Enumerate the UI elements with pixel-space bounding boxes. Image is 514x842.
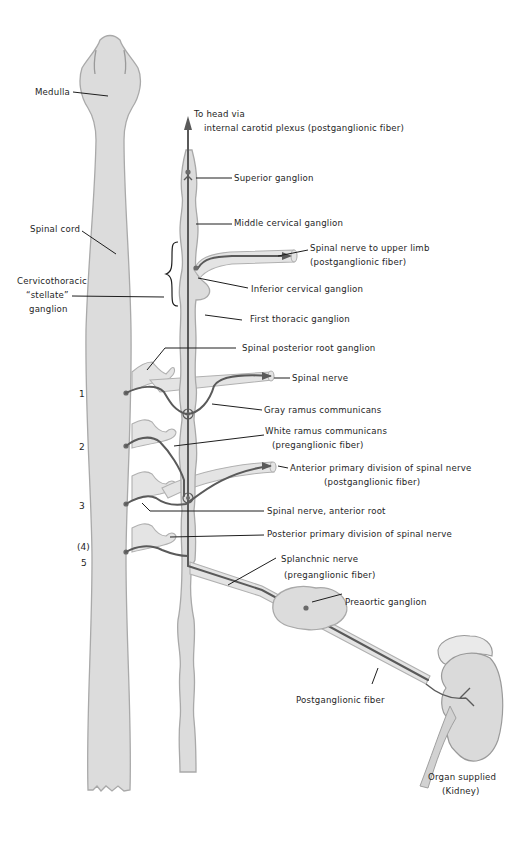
- label-to-head-line2: internal carotid plexus (postganglionic …: [204, 123, 404, 133]
- segment-number-3: 3: [79, 501, 85, 511]
- label-splanchnic-line1: Splanchnic nerve: [281, 554, 358, 564]
- label-preaortic-ganglion: Preaortic ganglion: [345, 597, 427, 607]
- label-medulla: Medulla: [35, 87, 70, 97]
- label-splanchnic-line2: (preganglionic fiber): [284, 570, 376, 580]
- label-posterior-primary-division: Posterior primary division of spinal ner…: [267, 529, 452, 539]
- label-organ-supplied-line2: (Kidney): [442, 786, 480, 796]
- label-spinal-nerve-upper-limb-line2: (postganglionic fiber): [310, 257, 406, 267]
- label-postganglionic-fiber: Postganglionic fiber: [296, 695, 385, 705]
- label-anterior-primary-line1: Anterior primary division of spinal nerv…: [290, 463, 471, 473]
- label-spinal-nerve-upper-limb-line1: Spinal nerve to upper limb: [310, 243, 430, 253]
- label-anterior-primary-line2: (postganglionic fiber): [324, 477, 420, 487]
- segment-number-5: 5: [81, 558, 87, 568]
- sympathetic-pathway-diagram: Medulla To head via internal carotid ple…: [0, 0, 514, 842]
- spinal-nerve-roots: [132, 362, 276, 552]
- label-superior-ganglion: Superior ganglion: [234, 173, 314, 183]
- label-stellate-line1: Cervicothoracic: [17, 276, 87, 286]
- label-spinal-nerve-anterior-root: Spinal nerve, anterior root: [267, 506, 386, 516]
- sympathetic-trunk-illustration: [178, 150, 210, 772]
- upper-limb-branch: [194, 250, 297, 278]
- label-gray-ramus-communicans: Gray ramus communicans: [264, 405, 382, 415]
- label-first-thoracic-ganglion: First thoracic ganglion: [250, 314, 350, 324]
- label-stellate-line3: ganglion: [29, 304, 68, 314]
- label-spinal-cord: Spinal cord: [30, 224, 80, 234]
- segment-number-4: (4): [77, 542, 90, 552]
- label-organ-supplied-line1: Organ supplied: [428, 772, 496, 782]
- label-white-ramus-line1: White ramus communicans: [265, 426, 387, 436]
- label-inferior-cervical-ganglion: Inferior cervical ganglion: [251, 284, 363, 294]
- stellate-brace: [166, 242, 178, 306]
- label-stellate-line2: “stellate”: [26, 290, 69, 300]
- label-middle-cervical-ganglion: Middle cervical ganglion: [234, 218, 343, 228]
- segment-number-1: 1: [79, 389, 85, 399]
- label-white-ramus-line2: (preganglionic fiber): [272, 440, 364, 450]
- segment-number-2: 2: [79, 442, 85, 452]
- label-to-head-line1: To head via: [193, 109, 245, 119]
- spinal-cord-illustration: [80, 36, 140, 792]
- label-spinal-nerve: Spinal nerve: [292, 373, 348, 383]
- kidney-illustration: [420, 636, 503, 788]
- label-spinal-posterior-root-ganglion: Spinal posterior root ganglion: [242, 343, 375, 353]
